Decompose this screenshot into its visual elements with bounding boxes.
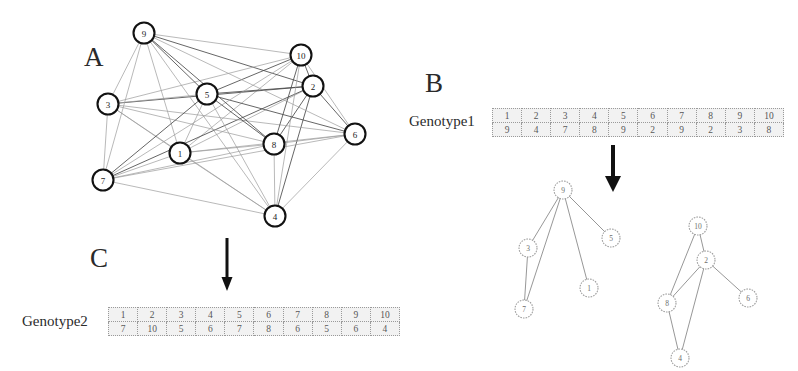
svg-text:5: 5 [609,234,613,243]
graph-a-node-6: 6 [345,124,366,145]
genotype2-index-cell: 6 [254,308,283,322]
genotype1-index-row: 12345678910 [493,109,784,123]
genotype2-index-cell: 8 [312,308,341,322]
svg-text:4: 4 [678,354,682,363]
genotype1-value-cell: 7 [551,123,580,137]
tree-left-node-1: 1 [580,279,598,297]
genotype2-value-row: 71056786564 [109,322,400,336]
genotype1-label: Genotype1 [409,113,475,130]
genotype1-value-cell: 4 [522,123,551,137]
tree-right-subgraph: 102864 [640,218,790,371]
svg-text:7: 7 [101,176,106,186]
graph-a-node-10: 10 [291,45,312,66]
tree-right-node-10: 10 [689,217,707,235]
down-arrow-a-to-c [216,238,238,292]
svg-text:1: 1 [587,284,591,293]
tree-right-node-2: 2 [697,251,715,269]
genotype2-value-cell: 8 [254,322,283,336]
genotype1-index-cell: 4 [580,109,609,123]
svg-text:10: 10 [694,222,702,231]
tree-left-node-5: 5 [602,229,620,247]
panel-letter-b: B [425,70,443,97]
genotype2-value-cell: 6 [341,322,370,336]
genotype2-value-cell: 7 [225,322,254,336]
genotype2-index-row: 12345678910 [109,308,400,322]
genotype1-value-cell: 2 [696,123,725,137]
genotype1-index-cell: 6 [638,109,667,123]
tree-left-edge [563,190,589,288]
genotype1-value-row: 9478929238 [493,123,784,137]
genotype1-value-cell: 2 [638,123,667,137]
svg-text:7: 7 [522,305,526,314]
genotype2-value-cell: 6 [196,322,225,336]
genotype2-value-cell: 5 [167,322,196,336]
genotype2-index-cell: 4 [196,308,225,322]
genotype2-index-cell: 7 [283,308,312,322]
genotype2-index-cell: 10 [370,308,399,322]
graph-a-node-8: 8 [264,134,285,155]
genotype2-value-cell: 5 [312,322,341,336]
genotype2-index-cell: 5 [225,308,254,322]
genotype1-value-cell: 8 [754,123,783,137]
graph-a-node-2: 2 [303,76,324,97]
svg-text:5: 5 [205,90,210,100]
genotype1-index-cell: 9 [725,109,754,123]
genotype1-value-cell: 3 [725,123,754,137]
graph-a-node-3: 3 [98,94,119,115]
genotype2-value-cell: 4 [370,322,399,336]
graph-a-node-5: 5 [197,84,218,105]
graph-a-node-7: 7 [93,170,114,191]
genotype2-table: 1234567891071056786564 [108,307,400,336]
genotype2-value-cell: 10 [138,322,167,336]
svg-text:2: 2 [704,256,708,265]
svg-text:4: 4 [273,212,278,222]
tree-left-edge [528,190,563,248]
svg-text:8: 8 [272,140,277,150]
tree-right-node-6: 6 [739,289,757,307]
svg-text:9: 9 [561,186,565,195]
genotype2-index-cell: 2 [138,308,167,322]
tree-right-node-4: 4 [671,349,689,367]
genotype2-label: Genotype2 [22,313,88,330]
genotype1-index-cell: 7 [667,109,696,123]
graph-a-node-4: 4 [265,206,286,227]
genotype1-index-cell: 8 [696,109,725,123]
genotype1-index-cell: 3 [551,109,580,123]
svg-text:3: 3 [106,100,111,110]
genotype1-value-cell: 9 [609,123,638,137]
panel-letter-c: C [90,245,108,272]
tree-left-node-7: 7 [515,300,533,318]
graph-a-edges [103,33,355,216]
genotype1-index-cell: 2 [522,109,551,123]
svg-text:8: 8 [665,299,669,308]
genotype1-value-cell: 9 [667,123,696,137]
tree-left-node-3: 3 [519,239,537,257]
genotype1-value-cell: 8 [580,123,609,137]
graph-a-node-1: 1 [170,143,191,164]
genotype2-value-cell: 6 [283,322,312,336]
genotype1-index-cell: 1 [493,109,522,123]
tree-right-edge [667,226,698,303]
tree-left-edge [563,190,611,238]
svg-text:6: 6 [353,130,358,140]
genotype2-value-cell: 7 [109,322,138,336]
tree-right-node-8: 8 [658,294,676,312]
genotype1-index-cell: 10 [754,109,783,123]
svg-text:9: 9 [142,29,147,39]
svg-text:10: 10 [297,51,307,61]
genotype1-value-cell: 9 [493,123,522,137]
svg-text:3: 3 [526,244,530,253]
tree-left-node-9: 9 [554,181,572,199]
panel-a-complete-graph: 12345678910 [0,0,420,250]
genotype2-index-cell: 9 [341,308,370,322]
svg-text:1: 1 [178,149,183,159]
genotype2-index-cell: 1 [109,308,138,322]
figure-root: A 12345678910 B Genotype1 12345678910947… [0,0,798,371]
svg-text:6: 6 [746,294,750,303]
svg-text:2: 2 [311,82,316,92]
tree-left-subgraph: 93517 [488,178,658,333]
genotype1-table: 123456789109478929238 [492,108,784,137]
graph-a-node-9: 9 [134,23,155,44]
genotype2-index-cell: 3 [167,308,196,322]
genotype1-index-cell: 5 [609,109,638,123]
